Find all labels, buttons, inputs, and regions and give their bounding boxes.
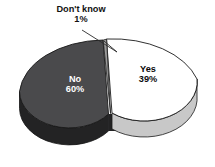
pie-slice-no-top [20, 40, 109, 128]
pie-chart: Don't know 1% Yes 39% No 60% [0, 0, 215, 167]
pie-chart-graphic [0, 0, 215, 167]
pie-slice-yes-top [107, 39, 198, 121]
pie-slice-yes[interactable] [107, 39, 198, 137]
